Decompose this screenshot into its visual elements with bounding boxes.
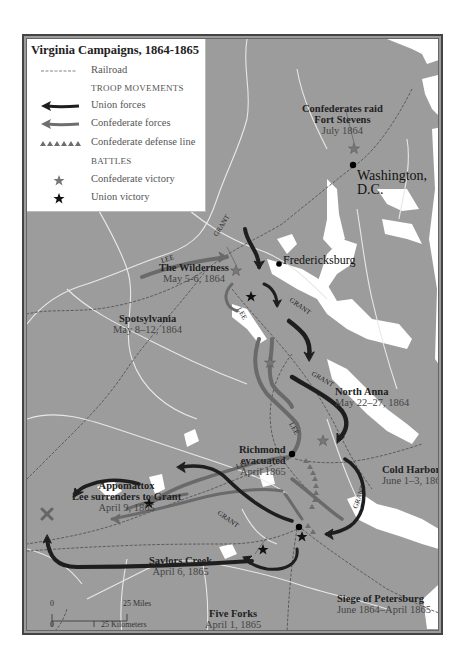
- city-markers: [276, 162, 356, 530]
- map-title: Virginia Campaigns, 1864-1865: [31, 43, 199, 58]
- battle-label-fort-stevens: Confederates raid Fort Stevens July 1864: [302, 103, 383, 136]
- petersburg-dot: [296, 524, 302, 530]
- battle-label-cold-harbor: Cold Harbor June 1–3, 1864: [382, 464, 439, 486]
- battle-label-wilderness: The Wilderness May 5-6, 1864: [159, 262, 229, 284]
- scale-miles-label: 25 Miles: [123, 599, 151, 608]
- battle-label-north-anna: North Anna May 22–27, 1864: [335, 386, 409, 408]
- grant-label: GRANT: [212, 213, 232, 238]
- svg-text:GRANT: GRANT: [216, 509, 241, 530]
- city-label-washington: Washington, D.C.: [357, 169, 427, 197]
- legend-battles-header: BATTLES: [27, 154, 205, 170]
- scale-zero-km: 0: [50, 620, 54, 629]
- scale-km-label: 25 Kilometers: [101, 620, 147, 629]
- washington-dot: [350, 162, 356, 168]
- map-frame: GRANT GRANT GRANT GRANT GRANT LEE LEE LE…: [22, 34, 443, 635]
- black-star-icon: [37, 192, 82, 204]
- richmond-dot: [289, 451, 295, 457]
- railroad-icon: [37, 65, 82, 77]
- union-arrow-icon: [37, 100, 82, 112]
- fredericksburg-dot: [276, 261, 282, 267]
- svg-text:GRANT: GRANT: [288, 296, 313, 317]
- legend-union-victory: Union victory: [27, 190, 205, 206]
- battle-label-petersburg: Siege of Petersburg June 1864–April 1865: [337, 593, 431, 615]
- scale-zero-miles: 0: [50, 599, 54, 608]
- map-area: GRANT GRANT GRANT GRANT GRANT LEE LEE LE…: [26, 38, 439, 631]
- battle-label-spotsylvania: Spotsylvania May 8–12, 1864: [113, 313, 182, 335]
- legend-confederate: Confederate forces: [27, 116, 205, 132]
- legend-defense-line: Confederate defense line: [27, 135, 205, 151]
- legend-union: Union forces: [27, 98, 205, 114]
- legend: Virginia Campaigns, 1864-1865 Railroad T…: [27, 39, 206, 212]
- legend-confederate-victory: Confederate victory: [27, 172, 205, 188]
- legend-railroad: Railroad: [27, 63, 205, 79]
- defense-line-icon: [37, 137, 82, 149]
- battle-label-richmond: Richmond evacuated April 1865: [239, 444, 286, 477]
- confederate-arrow-icon: [37, 118, 82, 130]
- battle-label-appomattox: Appomattox Lee surrenders to Grant April…: [72, 480, 181, 513]
- grey-star-icon: [37, 174, 82, 186]
- battle-label-five-forks: Five Forks April 1, 1865: [205, 608, 261, 630]
- city-label-fredericksburg: Fredericksburg: [283, 253, 355, 268]
- legend-troop-header: TROOP MOVEMENTS: [27, 81, 205, 97]
- appomattox-x-mark: [42, 509, 52, 519]
- battle-label-saylors-creek: Saylors Creek April 6, 1865: [149, 555, 212, 577]
